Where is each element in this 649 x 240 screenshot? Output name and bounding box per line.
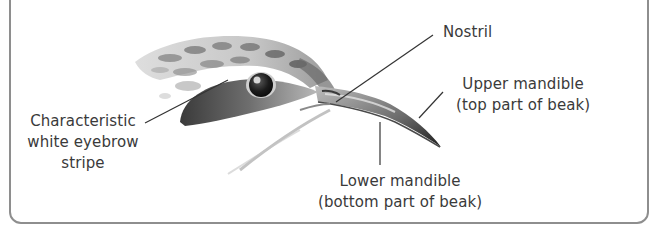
label-nostril: Nostril (443, 22, 492, 43)
label-line: Upper mandible (456, 74, 590, 95)
leader-nostril (336, 35, 433, 102)
label-line: Lower mandible (318, 171, 482, 192)
label-line: white eyebrow (24, 132, 142, 153)
throat-outline (240, 110, 330, 170)
label-line: (top part of beak) (456, 95, 590, 116)
label-lower-mandible: Lower mandible (bottom part of beak) (318, 171, 482, 213)
label-line: (bottom part of beak) (318, 192, 482, 213)
label-line: stripe (24, 153, 142, 174)
label-upper-mandible: Upper mandible (top part of beak) (456, 74, 590, 116)
label-line: Nostril (443, 22, 492, 43)
eye (246, 72, 276, 98)
label-eyebrow-stripe: Characteristic white eyebrow stripe (24, 111, 142, 174)
leader-upper-mandible (419, 92, 443, 118)
label-line: Characteristic (24, 111, 142, 132)
